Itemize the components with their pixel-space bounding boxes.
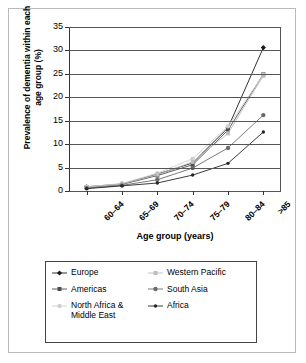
gridline-y-25 — [69, 74, 281, 75]
legend-marker-americas-icon — [51, 284, 68, 294]
y-tick-mark-10 — [65, 144, 69, 145]
gridline-y-35 — [69, 27, 281, 28]
series-layer — [69, 27, 281, 191]
legend-marker-north-africa-middle-east-icon — [51, 301, 68, 311]
legend-label-western-pacific: Western Pacific — [167, 267, 247, 277]
series-americas — [85, 72, 266, 189]
legend-label-americas: Americas — [71, 284, 147, 294]
legend: EuropeWestern PacificAmericasSouth AsiaN… — [45, 261, 257, 343]
x-tick-mark-1 — [122, 191, 123, 195]
gridline-y-20 — [69, 97, 281, 98]
y-tick-label-15: 15 — [33, 115, 63, 125]
legend-marker-western-pacific-icon — [147, 268, 164, 278]
legend-label-north-africa-middle-east: North Africa & Middle East — [71, 300, 147, 320]
legend-label-south-asia: South Asia — [167, 284, 247, 294]
gridline-y-30 — [69, 50, 281, 51]
gridline-y-5 — [69, 168, 281, 169]
x-tick-label-1: 65–69 — [137, 199, 161, 223]
legend-item-north-africa-middle-east[interactable]: North Africa & Middle East — [51, 300, 147, 320]
y-tick-mark-15 — [65, 121, 69, 122]
y-tick-mark-20 — [65, 97, 69, 98]
gridline-y-10 — [69, 144, 281, 145]
y-tick-label-10: 10 — [33, 138, 63, 148]
y-tick-label-35: 35 — [33, 21, 63, 31]
x-tick-label-5: >85 — [276, 199, 293, 216]
gridline-y-0 — [69, 191, 281, 192]
y-tick-mark-0 — [65, 191, 69, 192]
legend-item-americas[interactable]: Americas — [51, 284, 147, 295]
legend-grid: EuropeWestern PacificAmericasSouth AsiaN… — [51, 267, 251, 320]
legend-item-europe[interactable]: Europe — [51, 267, 147, 278]
y-tick-mark-35 — [65, 27, 69, 28]
series-north-africa-middle-east — [84, 73, 265, 189]
y-tick-label-0: 0 — [33, 185, 63, 195]
y-tick-mark-5 — [65, 168, 69, 169]
series-western-pacific — [85, 74, 266, 190]
x-tick-mark-5 — [263, 191, 264, 195]
legend-label-africa: Africa — [167, 300, 247, 310]
y-tick-mark-30 — [65, 50, 69, 51]
plot-area: 0510152025303560–6465–6970–7475–7980–84>… — [69, 27, 281, 191]
legend-marker-africa-icon — [147, 301, 164, 311]
x-tick-mark-2 — [157, 191, 158, 195]
series-africa — [85, 130, 265, 190]
legend-item-western-pacific[interactable]: Western Pacific — [147, 267, 247, 278]
y-tick-label-5: 5 — [33, 162, 63, 172]
legend-item-south-asia[interactable]: South Asia — [147, 284, 247, 295]
x-tick-label-2: 70–74 — [172, 199, 196, 223]
x-axis-label: Age group (years) — [69, 231, 281, 241]
legend-item-africa[interactable]: Africa — [147, 300, 247, 320]
chart-area: Prevalence of dementia within each age g… — [9, 9, 297, 249]
legend-label-europe: Europe — [71, 267, 147, 277]
x-tick-label-4: 80–84 — [243, 199, 267, 223]
x-tick-label-3: 75–79 — [208, 199, 232, 223]
x-tick-mark-4 — [228, 191, 229, 195]
y-tick-label-25: 25 — [33, 68, 63, 78]
x-tick-mark-0 — [87, 191, 88, 195]
x-tick-label-0: 60–64 — [102, 199, 126, 223]
x-tick-mark-3 — [193, 191, 194, 195]
gridline-y-15 — [69, 121, 281, 122]
y-tick-label-20: 20 — [33, 91, 63, 101]
y-tick-mark-25 — [65, 74, 69, 75]
legend-marker-south-asia-icon — [147, 284, 164, 294]
figure-frame: Prevalence of dementia within each age g… — [8, 8, 296, 353]
y-tick-label-30: 30 — [33, 44, 63, 54]
legend-marker-europe-icon — [51, 268, 68, 278]
